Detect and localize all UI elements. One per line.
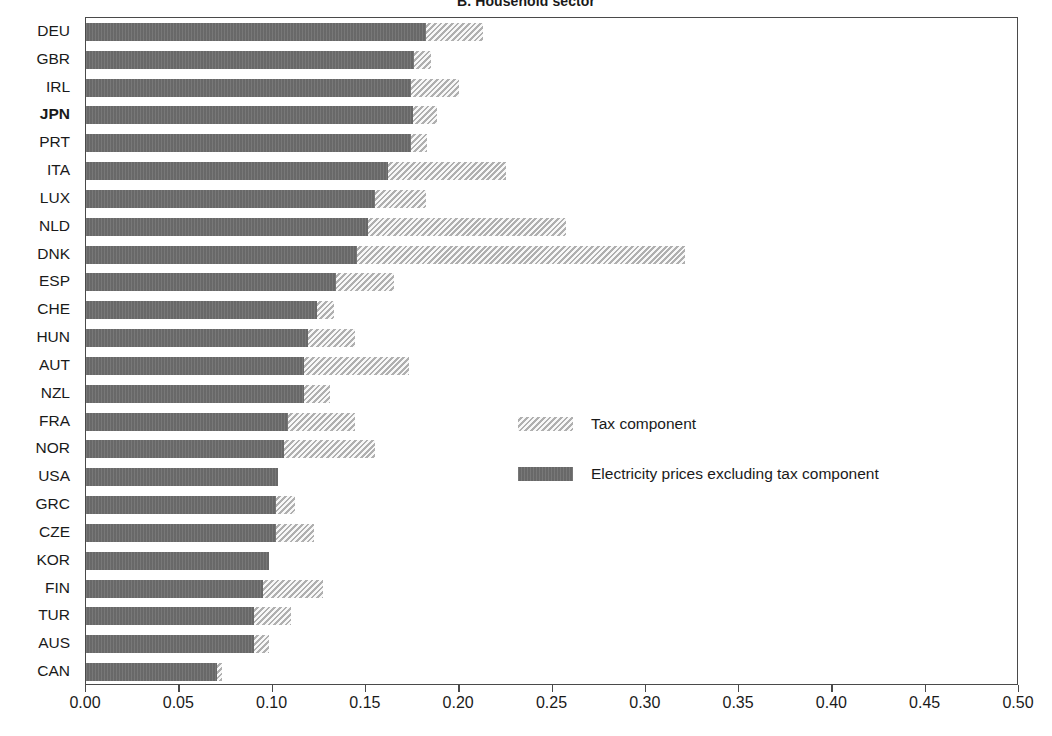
bar-segment-base: [86, 580, 263, 598]
x-axis-ticks: [85, 685, 1018, 693]
bar-segment-tax: [411, 79, 460, 97]
bar-segment-tax: [254, 635, 269, 653]
bar-segment-base: [86, 134, 411, 152]
y-axis-tick-label: FIN: [45, 579, 70, 597]
x-axis-tick: [365, 685, 366, 692]
x-axis-tick: [645, 685, 646, 692]
bar-segment-tax: [263, 580, 323, 598]
y-axis-tick-label: LUX: [40, 189, 70, 207]
bar-segment-tax: [426, 23, 484, 41]
bar-segment-base: [86, 273, 336, 291]
x-axis-tick-label: 0.35: [723, 694, 754, 712]
x-axis-tick-label: 0.15: [349, 694, 380, 712]
x-axis-tick: [178, 685, 179, 692]
bar-segment-tax: [411, 134, 428, 152]
chart-title: B. Household sector: [0, 0, 1052, 9]
bar-segment-base: [86, 79, 411, 97]
y-axis-tick-label: TUR: [38, 606, 70, 624]
bar-segment-base: [86, 468, 278, 486]
bar-segment-base: [86, 218, 368, 236]
x-axis-tick: [1018, 685, 1019, 692]
bar-segment-tax: [304, 385, 330, 403]
bar-segment-base: [86, 413, 288, 431]
legend-swatch-base: [518, 467, 573, 481]
y-axis-tick-label: CHE: [37, 300, 70, 318]
plot-area: [85, 17, 1018, 685]
x-axis-tick-label: 0.40: [816, 694, 847, 712]
x-axis-tick-labels: 0.000.050.100.150.200.250.300.350.400.45…: [0, 694, 1052, 720]
y-axis-tick-label: JPN: [40, 105, 70, 123]
y-axis-tick-label: NLD: [39, 217, 70, 235]
x-axis-tick-label: 0.20: [443, 694, 474, 712]
y-axis-tick-label: CAN: [37, 662, 70, 680]
x-axis-tick-label: 0.05: [163, 694, 194, 712]
bar-segment-tax: [336, 273, 394, 291]
bar-segment-tax: [254, 607, 291, 625]
y-axis-tick-label: ESP: [39, 272, 70, 290]
y-axis-tick-label: GRC: [36, 495, 70, 513]
x-axis-tick: [458, 685, 459, 692]
x-axis-tick-label: 0.25: [536, 694, 567, 712]
chart-figure: B. Household sector DEUGBRIRLJPNPRTITALU…: [0, 0, 1052, 736]
y-axis-tick-label: PRT: [39, 133, 70, 151]
legend-label: Electricity prices excluding tax compone…: [591, 464, 879, 484]
y-axis-tick-label: KOR: [36, 551, 70, 569]
y-axis-labels: DEUGBRIRLJPNPRTITALUXNLDDNKESPCHEHUNAUTN…: [0, 17, 78, 685]
y-axis-tick-label: CZE: [39, 523, 70, 541]
y-axis-tick-label: NZL: [41, 384, 70, 402]
bar-segment-tax: [276, 496, 295, 514]
bar-segment-base: [86, 51, 414, 69]
x-axis-tick: [831, 685, 832, 692]
bar-segment-tax: [217, 663, 223, 681]
bar-segment-base: [86, 162, 388, 180]
x-axis-tick: [272, 685, 273, 692]
y-axis-tick-label: IRL: [46, 78, 70, 96]
chart-legend: Tax componentElectricity prices excludin…: [518, 414, 938, 514]
legend-label: Tax component: [591, 414, 696, 434]
bar-segment-tax: [357, 246, 685, 264]
bar-segment-base: [86, 385, 304, 403]
legend-swatch-tax: [518, 417, 573, 431]
bar-segment-tax: [304, 357, 408, 375]
x-axis-tick-label: 0.00: [69, 694, 100, 712]
x-axis-tick-label: 0.45: [909, 694, 940, 712]
bar-segment-base: [86, 106, 413, 124]
y-axis-tick-label: GBR: [36, 50, 70, 68]
bar-segment-tax: [375, 190, 425, 208]
bar-segment-base: [86, 524, 276, 542]
bar-segment-base: [86, 496, 276, 514]
bars-layer: [86, 18, 1017, 684]
bar-segment-base: [86, 23, 426, 41]
bar-segment-tax: [413, 106, 437, 124]
bar-segment-tax: [308, 329, 355, 347]
y-axis-tick-label: AUT: [39, 356, 70, 374]
bar-segment-base: [86, 357, 304, 375]
x-axis-tick-label: 0.30: [629, 694, 660, 712]
bar-segment-base: [86, 440, 284, 458]
bar-segment-base: [86, 552, 269, 570]
y-axis-tick-label: USA: [38, 467, 70, 485]
bar-segment-tax: [284, 440, 375, 458]
bar-segment-tax: [368, 218, 566, 236]
bar-segment-base: [86, 663, 217, 681]
bar-segment-tax: [414, 51, 431, 69]
x-axis-tick: [738, 685, 739, 692]
x-axis-tick-label: 0.50: [1002, 694, 1033, 712]
y-axis-tick-label: ITA: [47, 161, 70, 179]
y-axis-tick-label: DEU: [37, 22, 70, 40]
bar-segment-base: [86, 301, 317, 319]
legend-entry: Electricity prices excluding tax compone…: [518, 464, 938, 486]
bar-segment-base: [86, 329, 308, 347]
bar-segment-tax: [276, 524, 313, 542]
x-axis-tick-label: 0.10: [256, 694, 287, 712]
y-axis-tick-label: AUS: [38, 634, 70, 652]
bar-segment-tax: [317, 301, 334, 319]
x-axis-tick: [85, 685, 86, 692]
bar-segment-tax: [388, 162, 506, 180]
x-axis-tick: [925, 685, 926, 692]
y-axis-tick-label: FRA: [39, 412, 70, 430]
bar-segment-base: [86, 635, 254, 653]
y-axis-tick-label: NOR: [36, 439, 70, 457]
bar-segment-base: [86, 246, 357, 264]
y-axis-tick-label: HUN: [36, 328, 70, 346]
